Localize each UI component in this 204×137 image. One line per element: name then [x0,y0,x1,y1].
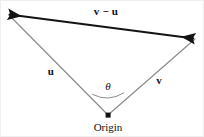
vector-v-minus-u-line [9,15,194,39]
label-vector-v: v [156,75,162,86]
vector-diagram-canvas [1,1,204,137]
vector-diagram-figure: v − u u v θ Origin [0,0,204,137]
label-v-minus-u: v − u [94,6,118,17]
label-angle-theta: θ [105,81,110,92]
origin-dot [106,113,111,118]
vector-v-line [108,39,195,115]
vector-u-line [9,15,109,116]
label-origin: Origin [94,122,123,133]
label-vector-u: u [48,66,54,77]
theta-arc [93,93,124,98]
